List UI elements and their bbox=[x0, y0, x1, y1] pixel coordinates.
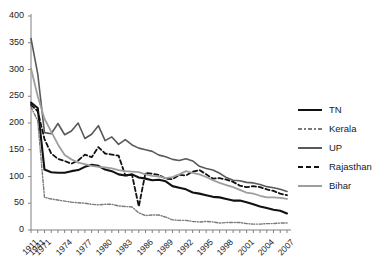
legend-item-label: Kerala bbox=[329, 123, 356, 134]
legend-swatch-icon bbox=[298, 181, 322, 191]
y-tick-label: 0 bbox=[0, 224, 24, 234]
y-tick-label: 400 bbox=[0, 10, 24, 20]
y-tick-label: 100 bbox=[0, 171, 24, 181]
y-tick-label: 350 bbox=[0, 37, 24, 47]
legend-item-tn[interactable]: TN bbox=[298, 100, 390, 119]
legend-item-label: Bihar bbox=[329, 180, 351, 191]
y-tick-label: 250 bbox=[0, 90, 24, 100]
legend-item-label: UP bbox=[329, 142, 342, 153]
legend-item-bihar[interactable]: Bihar bbox=[298, 176, 390, 195]
series-line-kerala bbox=[31, 107, 287, 224]
chart-legend: TNKeralaUPRajasthanBihar bbox=[298, 100, 390, 195]
legend-item-kerala[interactable]: Kerala bbox=[298, 119, 390, 138]
y-tick-label: 150 bbox=[0, 144, 24, 154]
legend-item-up[interactable]: UP bbox=[298, 138, 390, 157]
legend-swatch-icon bbox=[298, 143, 322, 153]
legend-swatch-icon bbox=[298, 162, 322, 172]
line-chart: 050100150200250300350400 191119411971197… bbox=[0, 0, 391, 278]
legend-swatch-icon bbox=[298, 124, 322, 134]
legend-item-label: TN bbox=[329, 104, 342, 115]
series-line-up bbox=[31, 38, 287, 191]
legend-item-rajasthan[interactable]: Rajasthan bbox=[298, 157, 390, 176]
y-tick-label: 50 bbox=[0, 197, 24, 207]
y-tick-label: 300 bbox=[0, 64, 24, 74]
legend-swatch-icon bbox=[298, 105, 322, 115]
legend-item-label: Rajasthan bbox=[329, 161, 372, 172]
y-tick-label: 200 bbox=[0, 117, 24, 127]
